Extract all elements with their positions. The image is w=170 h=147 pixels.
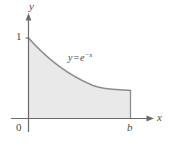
curve-equation-label: y=e−x [68,53,92,63]
x-axis-arrowhead-icon [147,116,155,122]
origin-label: 0 [16,122,22,133]
curve-equation-equals: = [72,52,80,63]
figure-canvas [0,0,170,147]
x-axis-label: x [157,112,162,123]
y-axis-label: y [29,1,34,12]
upper-limit-label: b [127,122,133,133]
y-axis-arrowhead-icon [26,13,32,21]
y-intercept-tick-label: 1 [16,31,22,42]
exponential-decay-figure: y x 1 0 b y=e−x [0,0,170,147]
curve-equation-exponent: −x [85,51,93,59]
